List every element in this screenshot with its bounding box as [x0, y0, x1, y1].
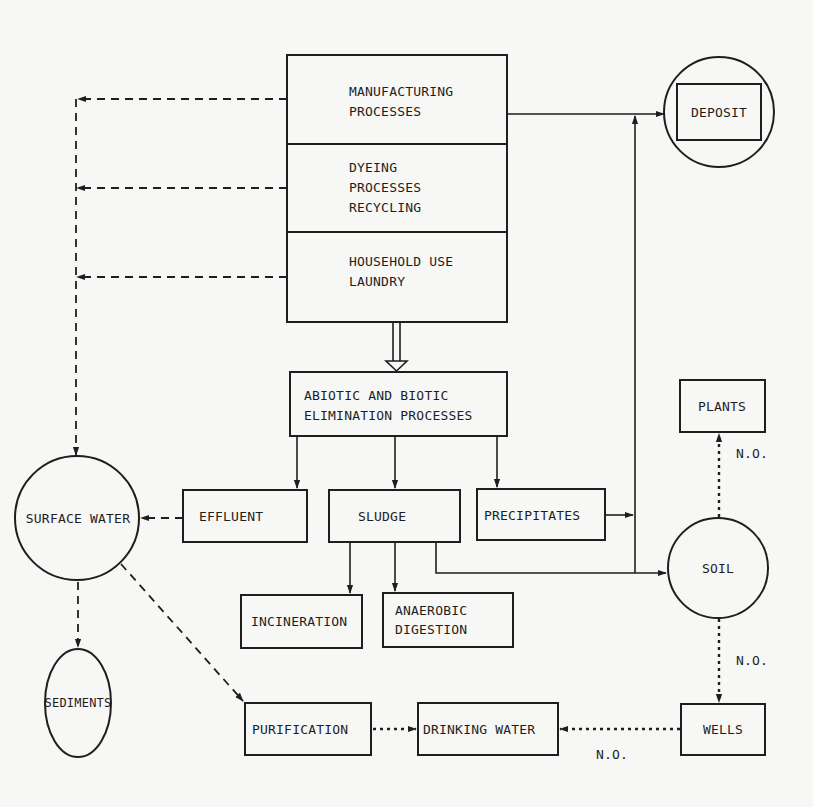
node-sediments: SEDIMENTS — [45, 649, 112, 757]
node-purification: PURIFICATION — [245, 703, 371, 755]
edge-sludge-soil — [436, 542, 666, 573]
fate-of-detergents-flow-diagram: MANUFACTURING PROCESSES DYEING PROCESSES… — [0, 0, 813, 807]
node-box — [290, 372, 507, 436]
node-label: SOIL — [702, 561, 734, 576]
node-label-line: DIGESTION — [395, 622, 467, 637]
edge-label-no: N.O. — [736, 446, 768, 461]
node-soil: SOIL — [668, 518, 768, 618]
edge-label-no: N.O. — [736, 653, 768, 668]
node-label-line: ANAEROBIC — [395, 603, 467, 618]
node-label-line: MANUFACTURING — [349, 84, 453, 99]
edge-household-elimination-double — [386, 322, 407, 371]
node-surface-water: SURFACE WATER — [15, 456, 139, 580]
node-label: WELLS — [703, 722, 743, 737]
node-household-use: HOUSEHOLD USE LAUNDRY — [349, 254, 453, 289]
node-precipitates: PRECIPITATES — [477, 489, 605, 540]
node-label-line: ABIOTIC AND BIOTIC — [304, 388, 448, 403]
node-label: SURFACE WATER — [26, 511, 130, 526]
node-label: SEDIMENTS — [45, 696, 112, 710]
node-wells: WELLS — [681, 704, 765, 755]
node-label: PURIFICATION — [252, 722, 348, 737]
node-label-line: PROCESSES — [349, 180, 421, 195]
node-elimination-processes: ABIOTIC AND BIOTIC ELIMINATION PROCESSES — [290, 372, 507, 436]
edges-dashed-to-surface-water — [76, 99, 287, 455]
node-dyeing-processes: DYEING PROCESSES RECYCLING — [349, 160, 421, 215]
node-manufacturing-processes: MANUFACTURING PROCESSES — [349, 84, 453, 119]
node-sludge: SLUDGE — [329, 490, 460, 542]
node-label-line: LAUNDRY — [349, 274, 405, 289]
node-label: PRECIPITATES — [484, 508, 580, 523]
node-drinking-water: DRINKING WATER — [418, 703, 558, 755]
node-label: INCINERATION — [251, 614, 347, 629]
node-label: DRINKING WATER — [423, 722, 535, 737]
node-deposit: DEPOSIT — [664, 57, 774, 167]
node-label: EFFLUENT — [199, 509, 263, 524]
node-incineration: INCINERATION — [241, 595, 362, 648]
node-anaerobic-digestion: ANAEROBIC DIGESTION — [383, 593, 513, 647]
node-effluent: EFFLUENT — [183, 490, 307, 542]
node-label-line: RECYCLING — [349, 200, 421, 215]
node-label-line: PROCESSES — [349, 104, 421, 119]
node-label: PLANTS — [698, 399, 746, 414]
node-plants: PLANTS — [680, 380, 765, 432]
node-box — [383, 593, 513, 647]
node-label-line: DYEING — [349, 160, 397, 175]
edge-label-no: N.O. — [596, 747, 628, 762]
node-label-line: ELIMINATION PROCESSES — [304, 408, 473, 423]
edge-surface-water-purification — [121, 564, 243, 701]
node-label: DEPOSIT — [691, 105, 747, 120]
node-label: SLUDGE — [358, 509, 406, 524]
node-label-line: HOUSEHOLD USE — [349, 254, 453, 269]
